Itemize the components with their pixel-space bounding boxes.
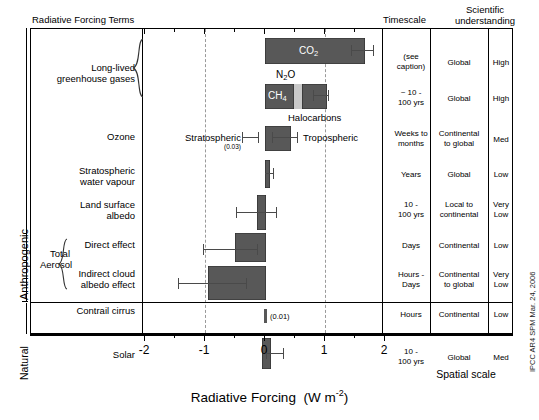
figure-root: Radiative Forcing Terms Timescale Scient… bbox=[0, 0, 539, 420]
errorbar-cap-direct-high bbox=[257, 244, 258, 255]
term-line2: greenhouse gases bbox=[40, 73, 135, 84]
cell-spatial-row7: Continental to global bbox=[431, 270, 487, 290]
cell-understanding-row5: Very Low bbox=[489, 200, 513, 220]
axis-tick-major-0 bbox=[264, 334, 265, 341]
errorbar-cap-strat-o3-low bbox=[242, 132, 243, 143]
cell-spatial-row9: Global bbox=[431, 353, 487, 363]
cell-spatial-row2: Global bbox=[431, 94, 487, 104]
axis-tick-top--1 bbox=[204, 28, 205, 34]
bar-halocarbons bbox=[302, 84, 327, 109]
header-timescale: Timescale bbox=[383, 14, 426, 25]
term-line2: albedo effect bbox=[62, 279, 135, 290]
term-label-land-surface-albedo: Land surface albedo bbox=[40, 199, 135, 221]
term-line1: Solar bbox=[40, 349, 135, 360]
axis-tick-minor--0-5 bbox=[234, 334, 235, 338]
spatial-line1: Continental bbox=[431, 270, 487, 280]
cell-understanding-row1: High bbox=[489, 58, 513, 68]
errorbar-cap-strat-o3-high bbox=[258, 132, 259, 143]
cell-understanding-row6: Low bbox=[489, 241, 513, 251]
axis-tick-minor-0-5 bbox=[294, 334, 295, 338]
side-label-anthropogenic: Anthropogenic bbox=[18, 229, 30, 300]
cell-understanding-row8: Low bbox=[489, 310, 513, 320]
axis-tick-top--0-5 bbox=[234, 28, 235, 32]
axis-label-spatial-scale: Spatial scale bbox=[412, 368, 520, 380]
bar-label-halocarbons: Halocarbons bbox=[288, 112, 341, 123]
errorbar-cap-co2-high bbox=[373, 45, 374, 56]
term-line1: Direct effect bbox=[68, 239, 135, 250]
term-line1: Long-lived bbox=[40, 62, 135, 73]
term-label-stratospheric-water-vapour: Stratospheric water vapour bbox=[40, 165, 135, 187]
bar-aerosol-direct-effect bbox=[235, 233, 266, 262]
header-scientific-understanding: Scientific understanding bbox=[449, 4, 521, 26]
bar-label-co2: CO2 bbox=[299, 45, 318, 56]
credit-label: IPCC AR4 SPM Mar. 24, 2006 bbox=[528, 272, 537, 372]
term-label-contrail-cirrus: Contrail cirrus bbox=[40, 305, 135, 316]
section-separator bbox=[31, 302, 512, 303]
cell-understanding-row7: Very Low bbox=[489, 270, 513, 290]
header-sci-line2: understanding bbox=[449, 15, 521, 26]
cell-spatial-row8: Continental bbox=[431, 310, 487, 320]
errorbar-cap-trop-o3-high bbox=[297, 132, 298, 143]
understanding-line1: Very bbox=[489, 200, 513, 210]
axis-tick-minor-1-5 bbox=[354, 334, 355, 338]
gridline-minus-1 bbox=[205, 29, 206, 333]
x-axis-line bbox=[30, 334, 513, 336]
spatial-line2: to global bbox=[431, 280, 487, 290]
gridline-plus-1 bbox=[325, 29, 326, 333]
spatial-line1: Continental bbox=[431, 129, 487, 139]
axis-ticklabel-1: 1 bbox=[304, 343, 344, 357]
section-bracket-anthropogenic bbox=[26, 28, 27, 302]
axis-title-radiative-forcing: Radiative Forcing (W m-2) bbox=[0, 388, 539, 405]
errorbar-cap-llghg-high bbox=[328, 90, 329, 101]
axis-title-units-open: (W m bbox=[303, 390, 335, 405]
errorbar-cap-cloud-high bbox=[246, 278, 247, 289]
axis-ticklabel-0: 0 bbox=[244, 343, 284, 357]
cell-understanding-row4: Low bbox=[489, 170, 513, 180]
term-line1: Land surface bbox=[40, 199, 135, 210]
axis-ticklabel-2: 2 bbox=[364, 343, 404, 357]
bar-n2o bbox=[294, 84, 302, 109]
axis-ticklabel--2: -2 bbox=[124, 343, 164, 357]
term-label-long-lived-ghg: Long-lived greenhouse gases bbox=[40, 62, 135, 84]
axis-tick-top-1-5 bbox=[354, 28, 355, 32]
axis-tick-top--2 bbox=[144, 28, 145, 34]
axis-title-units-exponent: -2 bbox=[336, 388, 344, 398]
errorbar-tropospheric-ozone bbox=[272, 137, 298, 138]
term-line1: Stratospheric bbox=[40, 165, 135, 176]
understanding-line2: Low bbox=[489, 280, 513, 290]
axis-tick-major--2 bbox=[144, 334, 145, 341]
axis-tick-minor--1-5 bbox=[174, 334, 175, 338]
errorbar-cap-albedo-low bbox=[236, 207, 237, 218]
cell-understanding-row9: Med bbox=[489, 353, 513, 363]
axis-tick-top-1 bbox=[324, 28, 325, 34]
term-line1: Indirect cloud bbox=[62, 268, 135, 279]
bar-label-stratospheric-ozone: Stratospheric bbox=[185, 132, 241, 143]
cell-spatial-row3: Continental to global bbox=[431, 129, 487, 149]
errorbar-land-surface-albedo bbox=[236, 212, 277, 213]
errorbar-co2 bbox=[351, 50, 374, 51]
bar-label-ch4: CH4 bbox=[268, 90, 287, 101]
axis-ticklabel--1: -1 bbox=[184, 343, 224, 357]
header-sci-line1: Scientific bbox=[449, 4, 521, 15]
errorbar-cap-llghg-low bbox=[313, 90, 314, 101]
errorbar-llghg bbox=[313, 95, 329, 96]
bar-note-stratospheric-ozone: (0.03) bbox=[224, 143, 241, 150]
section-bracket-natural bbox=[26, 303, 27, 334]
brace-total-aerosol bbox=[58, 238, 69, 290]
spatial-line2: continental bbox=[431, 210, 487, 220]
side-label-natural: Natural bbox=[18, 346, 30, 380]
cell-understanding-row3: Med bbox=[489, 135, 513, 145]
axis-tick-major--1 bbox=[204, 334, 205, 341]
spatial-line1: Local to bbox=[431, 200, 487, 210]
term-line2: water vapour bbox=[40, 176, 135, 187]
bar-tropospheric-ozone bbox=[265, 126, 291, 151]
errorbar-cap-trop-o3-low bbox=[272, 132, 273, 143]
axis-tick-major-1 bbox=[324, 334, 325, 341]
axis-tick-top-0-5 bbox=[294, 28, 295, 32]
term-line1: Contrail cirrus bbox=[40, 305, 135, 316]
bar-note-contrail-cirrus: (0.01) bbox=[270, 312, 290, 321]
understanding-line2: Low bbox=[489, 210, 513, 220]
term-label-direct-effect: Direct effect bbox=[68, 239, 135, 250]
term-line1: Ozone bbox=[40, 131, 135, 142]
cell-spatial-row4: Global bbox=[431, 170, 487, 180]
